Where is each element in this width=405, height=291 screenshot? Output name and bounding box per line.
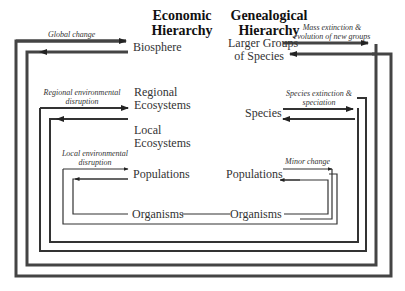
- header-line: Hierarchy: [147, 23, 217, 38]
- annotation-line: disruption: [60, 158, 130, 167]
- level-regional-ecosystems: Regional Ecosystems: [134, 86, 191, 112]
- annotation-minor-change: Minor change: [285, 157, 330, 166]
- level-economic-populations: Populations: [133, 168, 190, 181]
- annotation-line: speciation: [283, 98, 355, 107]
- loop-populations: [63, 169, 337, 224]
- economic-hierarchy-header: Economic Hierarchy: [147, 8, 217, 38]
- annotation-line: evolution of new groups: [292, 32, 372, 41]
- level-line: Ecosystems: [134, 137, 191, 150]
- feedback-loop-lines: [0, 0, 405, 291]
- level-line: of Species: [228, 50, 284, 63]
- annotation-line: Regional environmental: [42, 88, 122, 97]
- annotation-regional-disruption: Regional environmental disruption: [42, 88, 122, 106]
- level-larger-groups: Larger Groups of Species: [228, 37, 284, 63]
- level-genealogical-organisms: Organisms: [230, 208, 282, 221]
- level-species: Species: [245, 107, 282, 120]
- level-biosphere: Biosphere: [133, 41, 182, 54]
- level-economic-organisms: Organisms: [132, 208, 184, 221]
- annotation-species-extinction: Species extinction & speciation: [283, 89, 355, 107]
- header-line: Genealogical: [227, 8, 311, 23]
- level-genealogical-populations: Populations: [226, 168, 283, 181]
- annotation-mass-extinction: Mass extinction & evolution of new group…: [292, 23, 372, 41]
- annotation-line: disruption: [42, 97, 122, 106]
- level-local-ecosystems: Local Ecosystems: [134, 124, 191, 150]
- annotation-line: Species extinction &: [283, 89, 355, 98]
- header-line: Economic: [147, 8, 217, 23]
- annotation-line: Mass extinction &: [292, 23, 372, 32]
- loop-regional-species: [40, 98, 366, 251]
- level-line: Ecosystems: [134, 99, 191, 112]
- annotation-local-disruption: Local environmental disruption: [60, 149, 130, 167]
- annotation-global-change: Global change: [48, 30, 95, 39]
- annotation-line: Local environmental: [60, 149, 130, 158]
